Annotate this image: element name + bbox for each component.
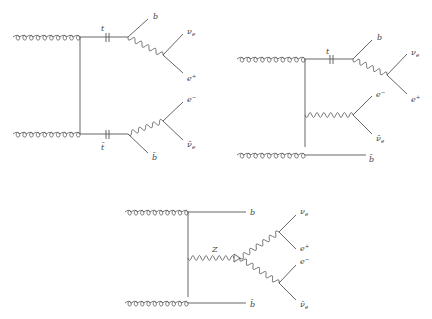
w-minus-boson xyxy=(305,113,353,118)
label-e-plus: e+ xyxy=(300,243,310,253)
label-nu: νe xyxy=(300,207,309,217)
gluon-line-top xyxy=(237,57,305,62)
positron-line xyxy=(279,232,296,249)
label-b: b xyxy=(153,12,158,21)
feynman-diagrams-canvas: t t̄ b νe e+ e− ν̄e b̄ t b νe e+ e− ν̄e … xyxy=(0,0,432,319)
gluon-line-top xyxy=(125,210,188,215)
label-top: t xyxy=(101,24,105,33)
label-bbar: b̄ xyxy=(369,154,374,164)
label-e-minus: e− xyxy=(187,94,197,104)
gluon-line-bottom xyxy=(13,132,80,137)
antineutrino-line xyxy=(353,115,372,134)
antineutrino-line xyxy=(163,121,183,140)
label-bbar: b̄ xyxy=(152,152,157,162)
label-nubar: ν̄e xyxy=(300,300,309,310)
gluon-line-top xyxy=(13,35,80,40)
bbar-quark-line xyxy=(128,134,148,153)
gluon-line-bottom xyxy=(237,153,305,158)
label-bbar: b̄ xyxy=(250,299,255,309)
label-e-plus: e+ xyxy=(411,94,421,104)
label-nu: νe xyxy=(411,48,420,58)
diagram-ttbar-pair: t t̄ b νe e+ e− ν̄e b̄ xyxy=(13,12,197,162)
z-vertex-marker xyxy=(234,254,240,262)
neutrino-line xyxy=(387,54,407,75)
w-plus-boson xyxy=(353,59,387,75)
w-plus-boson xyxy=(240,231,279,259)
w-minus-boson xyxy=(240,258,279,283)
label-nu: νe xyxy=(187,27,196,37)
gluon-line-bottom xyxy=(125,301,188,306)
b-quark-line xyxy=(353,40,372,59)
w-plus-boson xyxy=(128,37,163,55)
label-e-minus: e− xyxy=(376,89,386,99)
neutrino-line xyxy=(279,215,296,232)
label-z: Z xyxy=(211,245,218,254)
label-antitop: t̄ xyxy=(101,142,105,152)
electron-line xyxy=(279,265,296,283)
label-nubar: ν̄e xyxy=(187,140,196,150)
label-e-plus: e+ xyxy=(187,73,197,83)
w-minus-boson xyxy=(128,119,163,135)
positron-line xyxy=(387,75,407,94)
b-quark-line xyxy=(128,19,148,37)
antineutrino-line xyxy=(279,283,296,300)
electron-line xyxy=(353,96,372,115)
diagram-single-top-tW: t b νe e+ e− ν̄e b̄ xyxy=(237,33,421,164)
positron-line xyxy=(163,55,183,73)
diagram-bbZ: b b̄ Z νe e+ e− ν̄e xyxy=(125,207,310,310)
label-b: b xyxy=(377,33,382,42)
label-nubar: ν̄e xyxy=(376,134,385,144)
label-e-minus: e− xyxy=(300,256,310,266)
label-b: b xyxy=(250,208,255,217)
z-boson xyxy=(188,256,234,261)
label-top: t xyxy=(326,47,330,56)
neutrino-line xyxy=(163,34,183,55)
electron-line xyxy=(163,102,183,121)
